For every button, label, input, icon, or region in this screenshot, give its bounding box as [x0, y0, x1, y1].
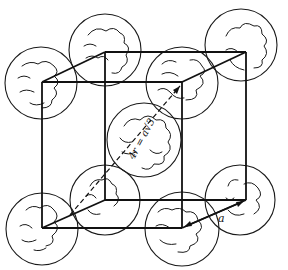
- edge-label-a: a: [218, 212, 225, 225]
- atom-front-top-left: [5, 47, 77, 119]
- body-diagonal-label: 4r = a√3: [126, 116, 157, 161]
- bcc-unit-cell-diagram: a 4r = a√3: [0, 0, 288, 270]
- body-diagonal: [70, 86, 180, 215]
